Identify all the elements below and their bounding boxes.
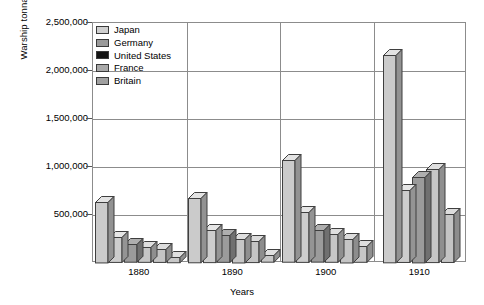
legend-swatch-icon	[96, 39, 109, 47]
y-tick-label: 2,500,000	[4, 16, 88, 27]
bar-1910-britain	[383, 49, 403, 263]
x-tick-label: 1890	[202, 266, 262, 277]
x-tick-label: 1900	[296, 266, 356, 277]
y-tick-label: 2,000,000	[4, 64, 88, 75]
legend-item-britain: Britain	[96, 75, 171, 87]
legend-label: Britain	[114, 75, 141, 87]
legend-item-japan: Japan	[96, 24, 171, 36]
legend-swatch-icon	[96, 51, 109, 59]
chart-container: Warship tonnage Years 500,0001,000,0001,…	[0, 0, 484, 305]
legend-swatch-icon	[96, 64, 109, 72]
legend-label: United States	[114, 50, 171, 62]
gridline	[93, 119, 465, 120]
legend-label: Germany	[114, 37, 153, 49]
y-tick-label: 500,000	[4, 208, 88, 219]
bar-1890-britain	[188, 192, 208, 263]
x-axis-title: Years	[0, 286, 484, 297]
y-tick-label: 1,000,000	[4, 160, 88, 171]
group-separator	[374, 23, 375, 261]
legend-label: France	[114, 62, 144, 74]
bar-1880-britain	[95, 196, 115, 263]
x-tick-label: 1910	[389, 266, 449, 277]
legend-item-germany: Germany	[96, 37, 171, 49]
gridline	[93, 167, 465, 168]
x-tick-label: 1880	[109, 266, 169, 277]
legend-swatch-icon	[96, 77, 109, 85]
legend-item-united-states: United States	[96, 50, 171, 62]
chart-legend: JapanGermanyUnited StatesFranceBritain	[96, 24, 171, 88]
legend-item-france: France	[96, 62, 171, 74]
legend-swatch-icon	[96, 26, 109, 34]
y-tick-label: 1,500,000	[4, 112, 88, 123]
legend-label: Japan	[114, 24, 140, 36]
bar-1900-britain	[282, 154, 302, 263]
